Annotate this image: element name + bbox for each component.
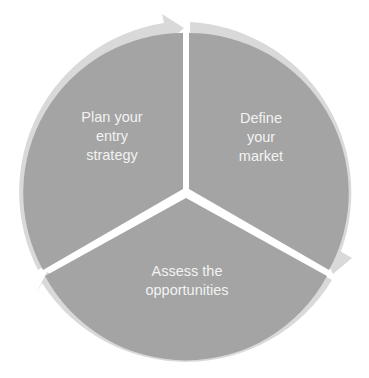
label-line: strategy	[86, 147, 138, 163]
label-line: Define	[240, 110, 282, 126]
label-line: Plan your	[81, 109, 142, 125]
label-line: market	[239, 148, 283, 164]
label-line: your	[247, 129, 275, 145]
cycle-diagram: Define your market Assess the opportunit…	[0, 0, 369, 378]
label-line: Assess the	[152, 263, 223, 279]
label-line: opportunities	[145, 282, 228, 298]
label-line: entry	[96, 128, 129, 144]
segments	[23, 33, 348, 360]
